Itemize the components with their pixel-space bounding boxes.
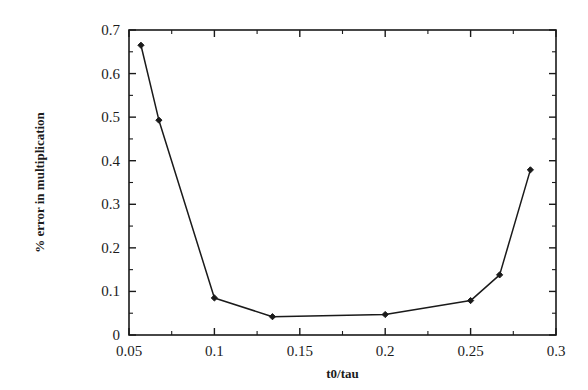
- x-tick-label: 0.15: [287, 343, 313, 359]
- y-tick-label: 0.6: [101, 66, 120, 82]
- y-tick-label: 0.1: [101, 283, 120, 299]
- chart-background: [0, 0, 588, 390]
- x-axis-title: t0/tau: [326, 366, 359, 381]
- x-tick-label: 0.3: [547, 343, 566, 359]
- y-tick-label: 0.2: [101, 240, 120, 256]
- y-tick-label: 0.3: [101, 196, 120, 212]
- x-tick-label: 0.05: [116, 343, 142, 359]
- x-tick-label: 0.2: [376, 343, 395, 359]
- y-tick-label: 0.4: [101, 153, 120, 169]
- x-tick-label: 0.25: [457, 343, 483, 359]
- line-chart: 00.10.20.30.40.50.60.7 0.050.10.150.20.2…: [0, 0, 588, 390]
- y-tick-label: 0.7: [101, 22, 120, 38]
- y-tick-label: 0: [113, 327, 121, 343]
- x-tick-label: 0.1: [205, 343, 224, 359]
- y-axis-title: % error in multiplication: [32, 111, 47, 252]
- chart-figure: 00.10.20.30.40.50.60.7 0.050.10.150.20.2…: [0, 0, 588, 390]
- y-tick-label: 0.5: [101, 109, 120, 125]
